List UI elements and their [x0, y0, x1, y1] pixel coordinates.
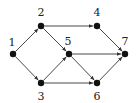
node-label-3: 3 [38, 90, 45, 103]
edge-1-to-2 [15, 29, 38, 52]
node-3 [38, 80, 44, 86]
nodes-group: 1234567 [9, 6, 129, 103]
node-2 [38, 23, 44, 29]
node-label-5: 5 [65, 35, 72, 48]
node-label-1: 1 [9, 36, 16, 49]
node-label-6: 6 [94, 90, 101, 103]
node-7 [122, 51, 128, 57]
node-6 [94, 80, 100, 86]
directed-graph-diagram: 1234567 [0, 0, 138, 103]
edge-2-to-5 [43, 28, 66, 51]
edge-5-to-6 [71, 56, 94, 80]
node-label-4: 4 [94, 6, 101, 19]
node-4 [94, 23, 100, 29]
node-label-7: 7 [122, 35, 129, 48]
edge-3-to-5 [43, 57, 66, 81]
edge-6-to-7 [99, 57, 122, 81]
node-label-2: 2 [38, 6, 45, 19]
node-1 [10, 51, 16, 57]
edge-1-to-3 [15, 56, 38, 80]
edge-4-to-7 [99, 28, 122, 51]
node-5 [66, 51, 72, 57]
